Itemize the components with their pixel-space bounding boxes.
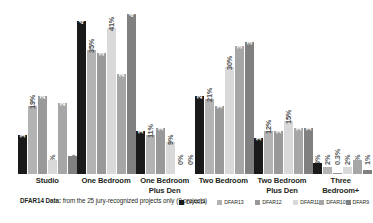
bar-slot: 2% xyxy=(343,8,352,174)
legend-item-dfar9[interactable]: DFAR9 xyxy=(346,198,369,206)
bar[interactable]: 12% xyxy=(264,131,273,174)
bar[interactable]: 13% xyxy=(294,128,303,174)
bar-slot: 13% xyxy=(304,8,313,174)
legend-swatch-icon xyxy=(319,200,324,205)
legend-label: DFAR12 xyxy=(262,199,281,205)
bar[interactable] xyxy=(68,156,77,174)
bar-slot: 12% xyxy=(136,8,145,174)
bar-slot: 9% xyxy=(166,8,175,174)
bar-value-label: 12% xyxy=(275,120,282,134)
legend-swatch-icon xyxy=(179,200,184,205)
bar-slot: 19% xyxy=(215,8,224,174)
bar[interactable]: 12% xyxy=(274,131,283,174)
bar-slot: 1% xyxy=(363,8,372,174)
bar[interactable] xyxy=(343,167,352,174)
bar-slot: 13% xyxy=(294,8,303,174)
bar[interactable]: 41% xyxy=(107,28,116,174)
bar[interactable]: 45% xyxy=(127,14,136,174)
bar-value-label: 12% xyxy=(137,120,144,134)
legend-label: DFAR10 xyxy=(326,199,345,205)
bar[interactable]: 21% xyxy=(205,99,214,174)
bar[interactable]: 19% xyxy=(215,106,224,174)
legend-item-dfar13[interactable]: DFAR13 xyxy=(217,198,255,206)
x-axis-tick-line: One Bedroom xyxy=(135,176,194,186)
bar-slot: 37% xyxy=(245,8,254,174)
bar-slot: 41% xyxy=(107,8,116,174)
x-axis-tick: Studio xyxy=(18,176,77,198)
bar-slot: 12% xyxy=(274,8,283,174)
bar[interactable] xyxy=(333,173,342,174)
bar[interactable] xyxy=(353,160,362,174)
bar[interactable] xyxy=(323,167,332,174)
footnote-bold-prefix: DFAR14 Data: xyxy=(20,197,61,204)
legend-item-dfar10[interactable]: DFAR10 xyxy=(319,198,345,206)
legend-swatch-icon xyxy=(255,200,260,205)
bar[interactable]: 20% xyxy=(58,103,67,174)
plot-area: 11%19%22%4%20%5%43%35%34%41%28%45%12%11%… xyxy=(18,8,370,174)
bar[interactable]: 43% xyxy=(77,21,86,174)
bar[interactable]: 11% xyxy=(146,135,155,174)
bar-slot: 3% xyxy=(313,8,322,174)
bar[interactable]: 28% xyxy=(117,74,126,174)
x-axis-tick-line: Two Bedroom xyxy=(253,176,312,186)
legend-item-dfar12[interactable]: DFAR12 xyxy=(255,198,293,206)
bar-slot: 13% xyxy=(156,8,165,174)
bar-slot: 2% xyxy=(323,8,332,174)
legend-label: DFAR9 xyxy=(353,199,369,205)
bar[interactable]: 30% xyxy=(225,67,234,174)
bar-value-label: 11% xyxy=(147,124,154,138)
bar-group: 43%35%34%41%28%45% xyxy=(77,8,136,174)
bar-group: 10%12%12%15%13%13% xyxy=(254,8,313,174)
bar[interactable]: 22% xyxy=(195,96,204,174)
bar[interactable]: 9% xyxy=(166,142,175,174)
bar-slot: 30% xyxy=(225,8,234,174)
bar-value-label: 1% xyxy=(364,154,371,164)
bar[interactable]: 10% xyxy=(254,138,263,174)
bar-group: 3%2%0.3%2%4%1% xyxy=(313,8,372,174)
bar-slot: 43% xyxy=(77,8,86,174)
bar-slot: 19% xyxy=(28,8,37,174)
bar-slot: 34% xyxy=(97,8,106,174)
x-axis-tick: One BedroomPlus Den xyxy=(135,176,194,198)
bar[interactable]: 22% xyxy=(38,96,47,174)
x-axis-tick: Three Bedroom+ xyxy=(311,176,370,198)
bar[interactable]: 12% xyxy=(136,131,145,174)
bar-value-label: 13% xyxy=(305,117,312,131)
bar[interactable]: 13% xyxy=(304,128,313,174)
bar[interactable]: 11% xyxy=(18,135,27,174)
bar-value-label: 30% xyxy=(226,56,233,70)
bar-value-label: 0% xyxy=(187,154,194,164)
bar[interactable]: 36% xyxy=(235,46,244,174)
bar[interactable] xyxy=(313,163,322,174)
bar[interactable]: 37% xyxy=(245,42,254,174)
bar-value-label: 13% xyxy=(157,117,164,131)
legend-item-dfar14[interactable]: DFAR14 xyxy=(179,198,217,206)
bar[interactable]: 19% xyxy=(28,106,37,174)
bar[interactable] xyxy=(363,170,372,174)
legend-label: DFAR14 xyxy=(186,199,205,205)
bar-value-label: 0% xyxy=(177,154,184,164)
bar-slot: 4% xyxy=(353,8,362,174)
x-axis-tick-line: Plus Den xyxy=(253,186,312,196)
bar-slot: 0.3% xyxy=(333,8,342,174)
bar-slot: 20% xyxy=(58,8,67,174)
bar[interactable]: 15% xyxy=(284,121,293,174)
legend-swatch-icon xyxy=(217,200,222,205)
legend-item-dfar11[interactable]: DFAR11 xyxy=(293,198,319,206)
legend-label: DFAR13 xyxy=(224,199,243,205)
bar-value-label: 21% xyxy=(206,88,213,102)
bar-value-label: 45% xyxy=(128,3,135,17)
bar[interactable]: 35% xyxy=(87,50,96,174)
x-axis-tick-line: Three Bedroom+ xyxy=(311,176,370,195)
bar-value-label: 41% xyxy=(108,17,115,31)
bar[interactable]: 34% xyxy=(97,53,106,174)
bar-value-label: 43% xyxy=(78,10,85,24)
bar-value-label: 28% xyxy=(118,63,125,77)
bar[interactable] xyxy=(48,160,57,174)
bar-value-label: 35% xyxy=(88,38,95,52)
bar-slot: 5% xyxy=(68,8,77,174)
x-axis-tick-line: Two Bedroom xyxy=(194,176,253,186)
bar-slot: 4% xyxy=(48,8,57,174)
bar[interactable]: 13% xyxy=(156,128,165,174)
x-axis-tick: One Bedroom xyxy=(77,176,136,198)
